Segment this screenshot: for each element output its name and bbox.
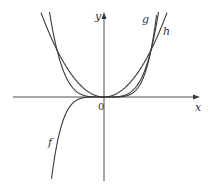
x-axis-label: x bbox=[195, 101, 202, 114]
curve-label-f: f bbox=[47, 136, 54, 149]
power-functions-diagram: y x 0 g h f bbox=[0, 0, 208, 188]
x-axis-arrow-icon bbox=[193, 95, 200, 100]
curve-label-h: h bbox=[163, 25, 170, 38]
y-axis-label: y bbox=[94, 10, 102, 23]
y-axis-arrow-icon bbox=[102, 12, 107, 19]
origin-label: 0 bbox=[98, 101, 104, 112]
curve-label-g: g bbox=[142, 13, 149, 26]
